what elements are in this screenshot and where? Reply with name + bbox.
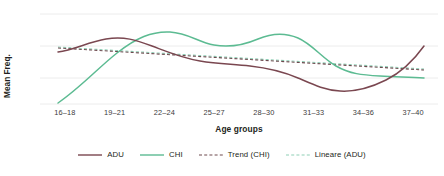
x-tick-label: 28–30 <box>239 108 289 120</box>
plot-area <box>40 6 438 106</box>
x-tick-label: 37–40 <box>388 108 438 120</box>
legend-line-icon <box>140 151 164 159</box>
x-tick-label: 16–18 <box>40 108 90 120</box>
legend-item-trend-chi[interactable]: Trend (CHI) <box>199 150 270 159</box>
legend-line-icon <box>78 151 102 159</box>
legend-label: ADU <box>107 150 124 159</box>
legend-dashed-line-icon <box>286 151 310 159</box>
legend-dashed-line-icon <box>199 151 223 159</box>
x-tick-label: 25–27 <box>189 108 239 120</box>
chart-legend: ADU CHI Trend (CHI) Lineare (ADU) <box>0 150 444 159</box>
x-tick-label: 31–33 <box>289 108 339 120</box>
x-tick-label: 19–21 <box>90 108 140 120</box>
y-axis-title-label: Mean Freq. <box>2 54 12 98</box>
chart-svg <box>40 6 438 106</box>
y-axis-title: Mean Freq. <box>12 18 26 98</box>
series-trend-chi-trendline <box>58 48 424 70</box>
legend-label: Lineare (ADU) <box>315 150 366 159</box>
legend-item-chi[interactable]: CHI <box>140 150 183 159</box>
x-axis-tick-labels: 16–18 19–21 22–24 25–27 28–30 31–33 34–3… <box>40 108 438 120</box>
legend-item-lineare-adu[interactable]: Lineare (ADU) <box>286 150 366 159</box>
legend-label: CHI <box>169 150 183 159</box>
legend-label: Trend (CHI) <box>228 150 270 159</box>
x-tick-label: 34–36 <box>339 108 389 120</box>
x-axis-title: Age groups <box>40 124 438 134</box>
series-chi-line <box>58 32 424 103</box>
legend-item-adu[interactable]: ADU <box>78 150 124 159</box>
chart-container: Mean Freq. 16–18 19–21 22–24 25–27 <box>0 0 444 176</box>
gridlines <box>40 14 438 104</box>
x-tick-label: 22–24 <box>140 108 190 120</box>
